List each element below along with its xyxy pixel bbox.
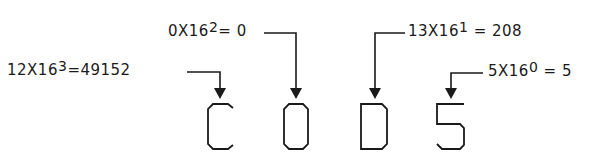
arrowhead-0-icon xyxy=(290,88,302,99)
arrowhead-c-icon xyxy=(214,88,226,99)
digit-0 xyxy=(284,104,308,149)
connector-5 xyxy=(451,73,483,90)
connector-lines xyxy=(0,0,606,159)
digit-5 xyxy=(437,104,464,149)
arrowhead-d-icon xyxy=(369,88,381,99)
digit-d xyxy=(361,104,387,149)
hex-conversion-diagram: 12X163=49152 0X162= 0 13X161 = 208 5X160… xyxy=(0,0,606,159)
connector-d xyxy=(375,33,405,90)
connector-0 xyxy=(264,33,296,90)
connector-c xyxy=(187,72,220,90)
digit-c xyxy=(208,104,233,149)
arrowhead-5-icon xyxy=(445,88,457,99)
